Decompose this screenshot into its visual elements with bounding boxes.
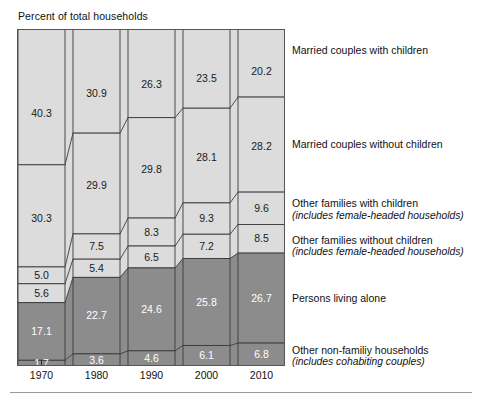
segment-1990-s1 (128, 29, 175, 118)
data-label-1980-s5: 22.7 (86, 309, 107, 321)
x-tick-2000: 2000 (183, 369, 230, 381)
legend-item-5: Persons living alone (292, 293, 386, 305)
x-tick-1970: 1970 (18, 369, 65, 381)
data-label-2000-s1: 23.5 (196, 72, 217, 84)
segment-2000-s1 (183, 29, 230, 108)
data-label-1970-s1: 40.3 (31, 107, 52, 119)
data-label-1980-s4: 5.4 (89, 262, 104, 274)
data-label-2000-s4: 7.2 (199, 240, 214, 252)
data-label-1970-s3: 5.0 (34, 269, 49, 281)
data-label-2000-s3: 9.3 (199, 212, 214, 224)
legend-sublabel: (includes cohabiting couples) (292, 356, 429, 368)
data-label-2000-s2: 28.1 (196, 151, 217, 163)
ribbon-2-1980-1990 (120, 118, 128, 234)
legend-item-1: Married couples with children (292, 45, 428, 57)
legend-label: Married couples with children (292, 45, 428, 57)
ribbon-2-2000-2010 (230, 97, 238, 203)
legend-label: Other families without children (292, 235, 464, 247)
bottom-divider (10, 392, 472, 393)
data-label-2000-s5: 25.8 (196, 296, 217, 308)
legend-item-4: Other families without children(includes… (292, 235, 464, 258)
data-label-1970-s2: 30.3 (31, 212, 52, 224)
data-label-2010-s5: 26.7 (251, 292, 272, 304)
x-axis-tick-labels: 19701980199020002010 (17, 369, 285, 385)
data-label-1970-s4: 5.6 (34, 287, 49, 299)
ribbon-5-1990-2000 (175, 258, 183, 350)
data-label-1970-s5: 17.1 (31, 325, 52, 337)
x-tick-2010: 2010 (238, 369, 285, 381)
data-label-1980-s2: 29.9 (86, 179, 107, 191)
legend-label: Married couples without children (292, 139, 443, 151)
legend-sublabel: (includes female-headed households) (292, 246, 464, 258)
x-tick-1990: 1990 (128, 369, 175, 381)
data-label-2000-s6: 6.1 (199, 349, 214, 361)
legend-label: Persons living alone (292, 293, 386, 305)
ribbon-6-2000-2010 (230, 343, 238, 366)
legend-item-2: Married couples without children (292, 139, 443, 151)
data-label-1990-s3: 8.3 (144, 226, 159, 238)
legend-item-6: Other non-familiy households(includes co… (292, 345, 429, 368)
plot-area: 40.330.35.05.617.11.730.929.97.55.422.73… (17, 29, 285, 366)
ribbon-5-1980-1990 (120, 268, 128, 354)
data-label-2010-s2: 28.2 (251, 140, 272, 152)
data-label-1990-s6: 4.6 (144, 352, 159, 364)
ribbon-1-2000-2010 (230, 29, 238, 108)
data-label-2010-s6: 6.8 (254, 348, 269, 360)
legend: Married couples with childrenMarried cou… (292, 29, 481, 369)
legend-label: Other non-familiy households (292, 345, 429, 357)
data-label-2010-s3: 9.6 (254, 202, 269, 214)
ribbon-5-2000-2010 (230, 253, 238, 345)
data-label-1990-s4: 6.5 (144, 251, 159, 263)
ribbon-1-1990-2000 (175, 29, 183, 118)
data-label-2010-s1: 20.2 (251, 65, 272, 77)
stacked-band-chart: 40.330.35.05.617.11.730.929.97.55.422.73… (17, 29, 285, 366)
data-label-2010-s4: 8.5 (254, 232, 269, 244)
data-label-1980-s6: 3.6 (89, 354, 104, 366)
ribbon-2-1990-2000 (175, 108, 183, 218)
legend-item-3: Other families with children(includes fe… (292, 198, 464, 221)
x-tick-1980: 1980 (73, 369, 120, 381)
axis-title: Percent of total households (18, 10, 148, 22)
segment-2010-s1 (238, 29, 285, 97)
legend-sublabel: (includes female-headed households) (292, 210, 464, 222)
data-label-1980-s1: 30.9 (86, 87, 107, 99)
ribbon-1-1980-1990 (120, 29, 128, 133)
legend-label: Other families with children (292, 198, 464, 210)
segment-1980-s1 (73, 29, 120, 133)
data-label-1990-s5: 24.6 (141, 303, 162, 315)
segment-1970-s1 (18, 29, 65, 165)
data-label-1980-s3: 7.5 (89, 240, 104, 252)
chart-figure: Percent of total households 40.330.35.05… (0, 0, 481, 406)
data-label-1990-s1: 26.3 (141, 78, 162, 90)
data-label-1990-s2: 29.8 (141, 163, 162, 175)
